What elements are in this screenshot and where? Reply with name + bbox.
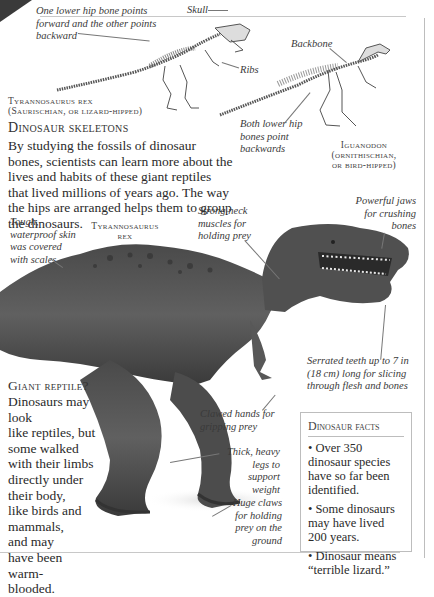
fact-item: •Dinosaur means “terrible lizard.”	[308, 549, 404, 577]
legs-annotation: Thick, heavy legs to support weight	[218, 446, 280, 496]
fact-item: •Some dinosaurs may have lived 200 years…	[308, 502, 404, 544]
fact-text: Some dinosaurs may have lived 200 years.	[308, 502, 395, 544]
dinosaur-facts-box: Dinosaur facts •Over 350 dinosaur specie…	[300, 412, 412, 552]
claws-annotation: Huge claws for holding prey on the groun…	[226, 497, 282, 547]
giant-reptile-line: with their limbs	[8, 456, 108, 472]
giant-reptile-line: warm-	[8, 566, 108, 582]
trex-model-label-line1: Tyrannosaurus	[90, 221, 160, 232]
giant-reptile-line: Dinosaurs may look	[8, 394, 108, 425]
bullet-icon: •	[308, 549, 312, 563]
facts-title: Dinosaur facts	[308, 419, 404, 437]
giant-reptile-line: directly under	[8, 472, 108, 488]
giant-reptile-line: blooded.	[8, 581, 108, 597]
giant-reptile-line: mammals,	[8, 519, 108, 535]
jaws-annotation: Powerful jaws for crushing bones	[350, 195, 416, 233]
giant-reptile-line: some walked	[8, 441, 108, 457]
giant-reptile-text: Dinosaurs may look like reptiles, but so…	[8, 394, 108, 597]
skin-annotation: Tough, waterproof skin was covered with …	[10, 216, 76, 266]
hands-annotation: Clawed hands for gripping prey	[200, 408, 282, 433]
trex-model-label-line2: rex	[90, 231, 160, 242]
fact-item: •Over 350 dinosaur species have so far b…	[308, 441, 404, 497]
giant-reptile-line: have been	[8, 550, 108, 566]
teeth-annotation: Serrated teeth up to 7 in (18 cm) long f…	[307, 355, 415, 393]
giant-reptile-line: like reptiles, but	[8, 425, 108, 441]
giant-reptile-line: like birds and	[8, 503, 108, 519]
giant-reptile-line: their body,	[8, 488, 108, 504]
bullet-icon: •	[308, 502, 312, 516]
giant-reptile-heading: Giant reptile?	[8, 378, 89, 394]
fact-text: Dinosaur means “terrible lizard.”	[308, 549, 396, 577]
bullet-icon: •	[308, 441, 312, 455]
fact-text: Over 350 dinosaur species have so far be…	[308, 441, 390, 497]
neck-annotation: Strong neck muscles for holding prey	[198, 205, 260, 243]
giant-reptile-line: and may	[8, 534, 108, 550]
